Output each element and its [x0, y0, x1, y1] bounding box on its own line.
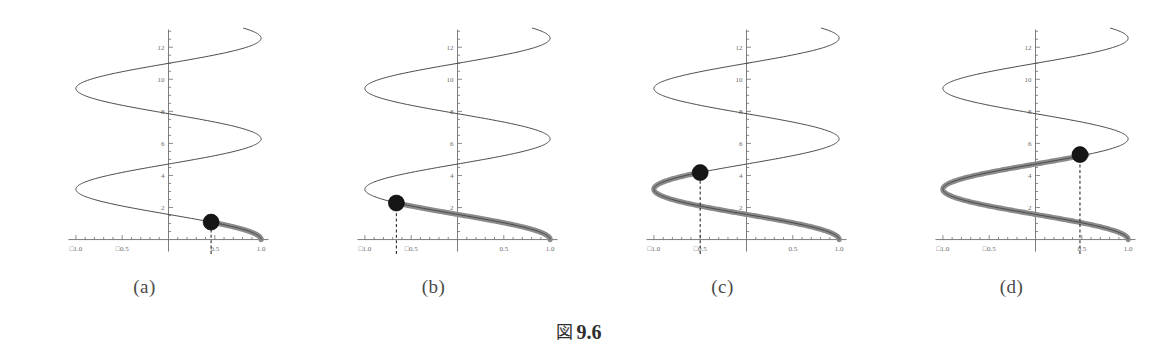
x-tick-label: □1.0	[647, 245, 660, 253]
chart-panel-c: □1.0□0.50.51.024681012 (c)	[578, 0, 867, 300]
plot-group-c: □1.0□0.50.51.024681012	[646, 28, 846, 254]
x-tick-label: 0.5	[1077, 245, 1086, 253]
figure-container: □1.0□0.50.51.024681012 (a) □1.0□0.50.51.…	[0, 0, 1157, 363]
y-tick-label: 6	[739, 140, 743, 148]
x-tick-label: 1.0	[835, 245, 844, 253]
marker-dot	[388, 195, 404, 211]
caption-kanji: 図	[556, 318, 573, 343]
y-tick-label: 6	[161, 140, 165, 148]
plot-group-b: □1.0□0.50.51.024681012	[357, 28, 557, 254]
plot-group-a: □1.0□0.50.51.024681012	[68, 28, 268, 254]
x-tick-label: 0.5	[499, 245, 508, 253]
y-tick-label: 8	[1028, 108, 1032, 116]
y-tick-label: 10	[1025, 76, 1033, 84]
x-tick-label: □1.0	[69, 245, 82, 253]
y-tick-label: 12	[447, 44, 455, 52]
panel-label-b: (b)	[289, 276, 578, 298]
x-tick-label: 0.5	[210, 245, 219, 253]
marker-dot	[203, 214, 219, 230]
y-tick-label: 8	[450, 108, 454, 116]
marker-dot	[1072, 147, 1088, 163]
x-tick-label: 0.5	[788, 245, 797, 253]
y-tick-label: 2	[161, 204, 165, 212]
plot-svg-b: □1.0□0.50.51.024681012	[289, 0, 578, 300]
x-tick-label: 1.0	[546, 245, 555, 253]
y-tick-label: 8	[161, 108, 165, 116]
x-tick-label: 1.0	[1124, 245, 1133, 253]
plot-svg-c: □1.0□0.50.51.024681012	[578, 0, 867, 300]
chart-panel-b: □1.0□0.50.51.024681012 (b)	[289, 0, 578, 300]
y-tick-label: 4	[450, 172, 454, 180]
x-tick-label: □1.0	[936, 245, 949, 253]
x-tick-label: □1.0	[358, 245, 371, 253]
x-tick-label: □0.5	[983, 245, 996, 253]
y-tick-label: 12	[736, 44, 744, 52]
plot-svg-d: □1.0□0.50.51.024681012	[867, 0, 1156, 300]
marker-dot	[692, 165, 708, 181]
y-tick-label: 6	[1028, 140, 1032, 148]
panels-row: □1.0□0.50.51.024681012 (a) □1.0□0.50.51.…	[0, 0, 1157, 300]
y-tick-label: 6	[450, 140, 454, 148]
x-tick-label: □0.5	[405, 245, 418, 253]
chart-panel-d: □1.0□0.50.51.024681012 (d)	[867, 0, 1156, 300]
traced-curve-segment	[397, 203, 550, 240]
plot-svg-a: □1.0□0.50.51.024681012	[0, 0, 289, 300]
x-tick-label: □0.5	[116, 245, 129, 253]
x-tick-label: 1.0	[257, 245, 266, 253]
panel-label-c: (c)	[578, 276, 867, 298]
plot-group-d: □1.0□0.50.51.024681012	[935, 28, 1135, 254]
caption-number: 9.6	[577, 321, 602, 343]
panel-label-a: (a)	[0, 276, 289, 298]
chart-panel-a: □1.0□0.50.51.024681012 (a)	[0, 0, 289, 300]
y-tick-label: 4	[739, 172, 743, 180]
figure-caption: 図9.6	[0, 318, 1157, 344]
y-tick-label: 12	[158, 44, 166, 52]
y-tick-label: 12	[1025, 44, 1033, 52]
panel-label-d: (d)	[867, 276, 1156, 298]
y-tick-label: 8	[739, 108, 743, 116]
y-tick-label: 10	[158, 76, 166, 84]
y-tick-label: 4	[1028, 172, 1032, 180]
y-tick-label: 10	[447, 76, 455, 84]
y-tick-label: 10	[736, 76, 744, 84]
y-tick-label: 4	[161, 172, 165, 180]
